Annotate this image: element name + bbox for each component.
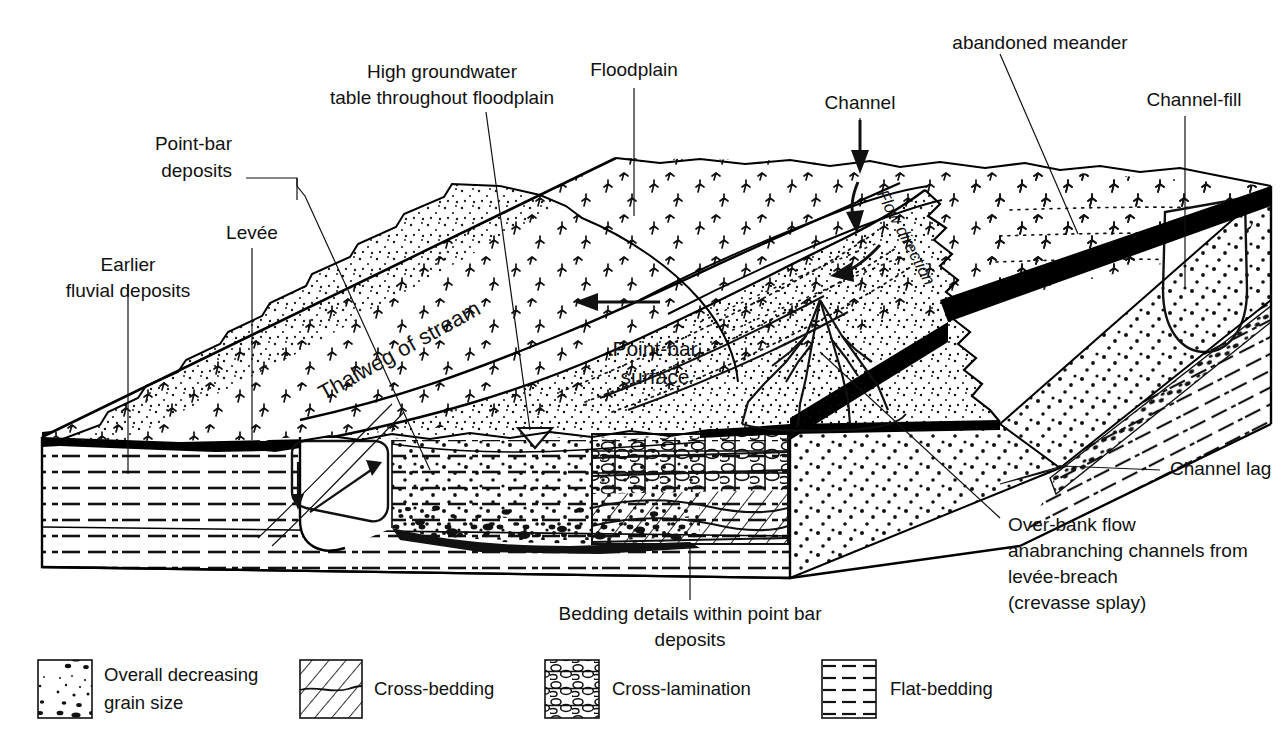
label-earlier-fluvial-deposits: Earlier fluvial deposits: [66, 254, 191, 301]
overbank-line4: (crevasse splay): [1008, 592, 1146, 613]
overbank-line1: Over-bank flow: [1008, 514, 1136, 535]
bedding-details-line1: Bedding details within point bar: [558, 603, 822, 624]
figure-page: Earlier fluvial deposits Levée Point-bar…: [0, 0, 1281, 750]
label-bedding-details: Bedding details within point bar deposit…: [558, 603, 822, 650]
label-high-groundwater-table: High groundwater table throughout floodp…: [330, 61, 554, 108]
bedding-detail-panel: [592, 434, 788, 544]
legend-item-cross-lamination: Cross-lamination: [545, 660, 751, 718]
bedding-details-line2: deposits: [655, 629, 726, 650]
label-overbank-flow: Over-bank flow anabranching channels fro…: [1008, 514, 1248, 613]
label-levee: Levée: [226, 222, 278, 243]
legend-swatch-cross-lamination: [545, 660, 599, 718]
legend-swatch-flat-bedding: [822, 660, 876, 718]
legend-item-overall-decreasing-grain-size: Overall decreasing grain size: [38, 660, 258, 718]
legend-swatch-grain-size: [38, 660, 92, 718]
label-abandoned-meander: abandoned meander: [952, 32, 1128, 53]
label-channel: Channel: [825, 92, 896, 113]
high-groundwater-line1: High groundwater: [367, 61, 518, 82]
overbank-line3: levée-breach: [1008, 566, 1118, 587]
point-bar-deposits-line2: deposits: [161, 160, 232, 181]
high-groundwater-line2: table throughout floodplain: [330, 87, 554, 108]
overbank-line2: anabranching channels from: [1008, 540, 1248, 561]
legend-item-cross-bedding: Cross-bedding: [300, 660, 494, 718]
point-bar-surface-line1: Point-bar: [612, 337, 697, 360]
label-channel-lag: Channel lag: [1170, 458, 1271, 479]
legend-label-0-line1: Overall decreasing: [104, 664, 258, 685]
earlier-fluvial-deposits-line1: Earlier: [101, 254, 157, 275]
legend-label-0-line2: grain size: [104, 692, 183, 713]
label-floodplain: Floodplain: [590, 59, 678, 80]
label-channel-fill: Channel-fill: [1146, 89, 1241, 110]
legend-label-1-line1: Cross-bedding: [374, 678, 494, 699]
legend-item-flat-bedding: Flat-bedding: [822, 660, 993, 718]
point-bar-surface-line2: surface: [621, 365, 690, 388]
legend-label-3-line1: Flat-bedding: [890, 678, 993, 699]
earlier-fluvial-deposits-line2: fluvial deposits: [66, 280, 191, 301]
point-bar-deposits-line1: Point-bar: [155, 133, 233, 154]
label-point-bar-deposits: Point-bar deposits: [155, 133, 233, 181]
block-diagram-figure: Earlier fluvial deposits Levée Point-bar…: [0, 0, 1281, 750]
legend: Overall decreasing grain size Cross-bedd…: [38, 660, 993, 718]
legend-label-2-line1: Cross-lamination: [612, 678, 751, 699]
